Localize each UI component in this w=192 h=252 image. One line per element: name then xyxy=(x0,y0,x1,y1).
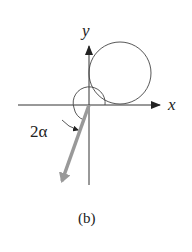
x-axis-label: x xyxy=(167,95,176,114)
angle-diagram: y x 2α (b) xyxy=(0,0,192,252)
angle-label: 2α xyxy=(30,122,48,141)
y-axis-label: y xyxy=(80,21,90,40)
spiral-tail-arc xyxy=(62,120,78,130)
vector-arrow xyxy=(62,105,89,181)
figure-caption: (b) xyxy=(78,210,96,227)
outer-spiral-arc xyxy=(89,42,151,104)
